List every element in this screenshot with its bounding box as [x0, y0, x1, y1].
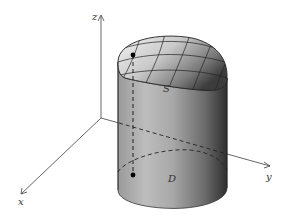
point-in-region [131, 173, 136, 178]
y-axis-label: y [265, 171, 272, 182]
x-axis [21, 118, 101, 194]
point-on-surface [131, 53, 136, 58]
x-axis-label: x [18, 196, 24, 207]
z-axis-label: z [91, 11, 98, 22]
surface-over-region-diagram: z x y [0, 0, 284, 219]
z-axis [98, 15, 104, 118]
surface-label: S [163, 83, 170, 94]
region-label: D [167, 173, 176, 184]
